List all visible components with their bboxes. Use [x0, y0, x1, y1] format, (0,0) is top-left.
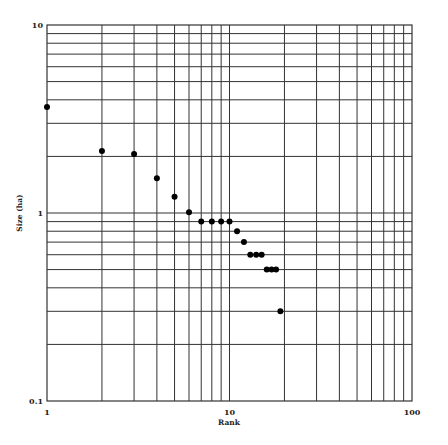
y-axis-label: Size (ha) [15, 194, 24, 231]
data-point [247, 252, 253, 258]
data-point [259, 252, 265, 258]
data-point [186, 209, 192, 215]
x-tick-label: 100 [404, 407, 421, 417]
data-point [154, 175, 160, 181]
data-point [234, 228, 240, 234]
x-tick-label: 10 [224, 407, 236, 417]
data-point [209, 219, 215, 225]
data-point [131, 151, 137, 157]
data-point [241, 239, 247, 245]
y-tick-label: 10 [32, 20, 44, 30]
x-axis-label: Rank [218, 418, 241, 427]
y-tick-label: 1 [37, 208, 43, 218]
data-point [253, 252, 259, 258]
rank-size-chart: 110100 0.1110 Rank Size (ha) [0, 0, 448, 445]
data-point [44, 104, 50, 110]
grid-lines [47, 25, 412, 401]
y-tick-labels: 0.1110 [29, 20, 43, 406]
data-point [198, 219, 204, 225]
data-points [44, 104, 283, 314]
data-point [227, 219, 233, 225]
x-tick-labels: 110100 [44, 407, 421, 417]
data-point [218, 219, 224, 225]
data-point [172, 194, 178, 200]
x-tick-label: 1 [44, 407, 50, 417]
data-point [277, 308, 283, 314]
data-point [273, 267, 279, 273]
y-tick-label: 0.1 [29, 396, 43, 406]
data-point [99, 148, 105, 154]
